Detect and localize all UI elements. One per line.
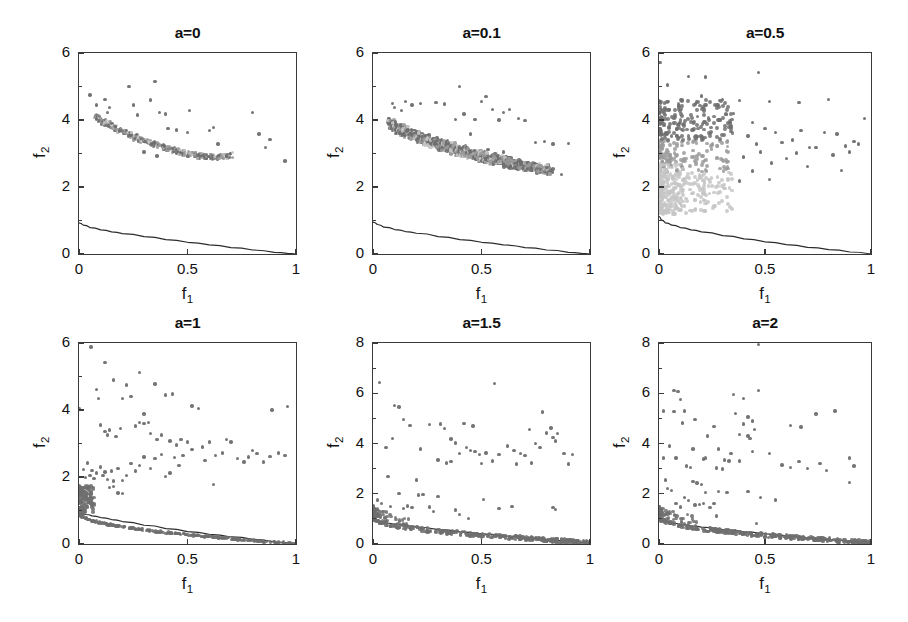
data-point: [450, 533, 453, 536]
data-point: [427, 134, 431, 138]
data-point: [687, 527, 690, 530]
data-point: [142, 412, 145, 415]
data-point: [163, 146, 166, 149]
data-point: [721, 531, 724, 534]
data-point: [484, 157, 488, 161]
data-point: [586, 542, 589, 545]
data-point: [668, 143, 672, 147]
data-point: [133, 137, 136, 140]
data-point: [125, 383, 128, 386]
data-point: [482, 155, 486, 159]
data-point: [702, 113, 706, 117]
data-point: [853, 540, 856, 543]
data-point: [115, 525, 118, 528]
data-point: [658, 61, 661, 64]
data-point: [658, 174, 661, 178]
data-point: [692, 155, 696, 159]
data-point: [671, 212, 675, 216]
data-point: [681, 179, 685, 183]
data-point: [702, 107, 706, 111]
x-axis-label-subscript: 1: [764, 583, 771, 595]
data-point: [658, 510, 661, 513]
data-point: [517, 166, 521, 170]
data-point: [194, 152, 197, 155]
data-point: [148, 529, 151, 532]
data-point: [661, 175, 665, 179]
data-point: [408, 133, 412, 137]
data-point: [162, 144, 165, 147]
data-point: [666, 117, 670, 121]
data-point: [487, 158, 491, 162]
data-point: [477, 155, 481, 159]
data-point: [725, 149, 729, 153]
data-point: [88, 518, 91, 521]
data-point: [538, 538, 541, 541]
data-point: [662, 203, 666, 207]
data-point: [710, 176, 714, 180]
data-point: [663, 209, 667, 213]
data-point: [475, 152, 479, 156]
data-point: [462, 422, 465, 425]
data-point: [707, 118, 711, 122]
data-point: [374, 519, 377, 522]
data-point: [90, 493, 94, 497]
data-point: [394, 124, 398, 128]
data-point: [438, 145, 442, 149]
data-point: [472, 534, 475, 537]
data-point: [755, 142, 758, 145]
data-point: [411, 129, 415, 133]
data-point: [709, 528, 712, 531]
data-point: [500, 157, 504, 161]
x-tick-label: 1: [266, 260, 326, 277]
data-point: [220, 154, 223, 157]
data-point: [543, 539, 546, 542]
data-point: [431, 137, 435, 141]
data-point: [782, 535, 785, 538]
data-point: [496, 154, 500, 158]
data-point: [80, 492, 84, 496]
data-point: [78, 490, 81, 494]
data-point: [293, 542, 296, 545]
data-point: [456, 149, 460, 153]
data-point: [445, 143, 449, 147]
y-tick-label: 2: [332, 484, 364, 501]
data-point: [111, 124, 114, 127]
data-point: [673, 514, 676, 517]
data-point: [230, 538, 233, 541]
data-point: [453, 141, 457, 145]
data-point: [376, 515, 379, 518]
data-point: [661, 186, 665, 190]
data-point: [226, 154, 229, 157]
data-point: [716, 144, 720, 148]
data-point: [672, 212, 676, 216]
y-tick-label: 6: [332, 43, 364, 60]
data-point: [756, 533, 759, 536]
data-point: [497, 159, 501, 163]
data-point: [665, 205, 669, 209]
data-point: [492, 155, 496, 159]
data-point: [867, 542, 870, 545]
data-point: [123, 525, 126, 528]
data-point: [712, 425, 715, 428]
data-point: [103, 121, 106, 124]
data-point: [672, 131, 676, 135]
data-point: [451, 145, 455, 149]
data-point: [142, 140, 145, 143]
data-point: [516, 161, 520, 165]
data-point: [570, 538, 573, 541]
data-point: [507, 166, 511, 170]
data-point: [860, 539, 863, 542]
data-point: [659, 509, 662, 512]
data-point: [556, 432, 559, 435]
data-point: [504, 536, 507, 539]
data-point: [386, 121, 390, 125]
data-point: [189, 154, 192, 157]
data-point: [678, 208, 682, 212]
data-point: [667, 108, 671, 112]
data-point: [675, 182, 679, 186]
data-point: [508, 536, 511, 539]
data-point: [726, 528, 729, 531]
data-point: [686, 513, 689, 516]
data-point: [186, 440, 189, 443]
data-point: [837, 538, 840, 541]
